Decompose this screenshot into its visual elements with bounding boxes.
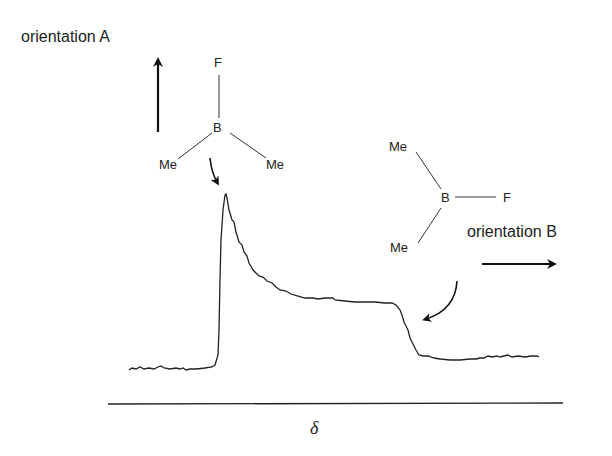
molecule-b-boron: B	[441, 190, 450, 205]
orientation-a-label: orientation A	[21, 28, 110, 46]
molecule-a-methyl-left: Me	[159, 157, 177, 172]
molecule-a-boron: B	[213, 120, 222, 135]
molecule-b-fluorine: F	[503, 190, 511, 205]
curved-arrow-b-icon	[426, 281, 457, 319]
molecule-a-bonds	[178, 75, 266, 159]
spectrum-trace	[129, 194, 539, 370]
curved-arrow-a-icon	[210, 158, 217, 182]
x-axis	[108, 403, 563, 404]
orientation-b-label: orientation B	[467, 223, 557, 241]
x-axis-label: δ	[310, 418, 318, 439]
molecule-a-fluorine: F	[214, 55, 222, 70]
molecule-b-methyl-bottom: Me	[390, 240, 408, 255]
molecule-b-methyl-top: Me	[389, 139, 407, 154]
molecule-a-methyl-right: Me	[266, 157, 284, 172]
